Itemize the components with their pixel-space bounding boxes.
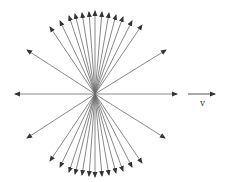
field-line-arrow: [95, 94, 165, 138]
field-line-arrow: [50, 27, 95, 94]
field-line-arrow: [50, 94, 95, 161]
field-line-arrow: [69, 16, 95, 94]
field-line-arrow: [95, 94, 142, 163]
field-line-group: [15, 11, 177, 177]
field-line-arrow: [82, 13, 95, 94]
field-line-arrow: [95, 94, 109, 175]
field-line-arrow: [95, 13, 109, 94]
field-line-arrow: [95, 17, 123, 94]
velocity-label: v: [200, 98, 205, 108]
field-line-arrow: [95, 25, 142, 94]
field-line-arrow: [95, 50, 166, 94]
field-line-arrow: [82, 94, 95, 175]
field-line-arrow: [69, 94, 95, 172]
field-line-arrow: [95, 94, 123, 171]
field-lines-diagram: [0, 0, 226, 182]
